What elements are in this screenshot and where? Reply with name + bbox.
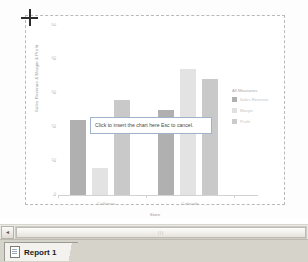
- legend-item-label: Margin: [240, 108, 253, 113]
- tab-label: Report 1: [24, 248, 56, 257]
- x-tick-label-colorado: Colorado: [160, 201, 220, 206]
- y-tick-mark: [53, 59, 56, 60]
- x-axis-tick: [146, 195, 147, 198]
- scrollbar-grip-icon: |||: [158, 230, 164, 235]
- legend-item-sales-revenue[interactable]: Sales Revenue: [232, 97, 284, 102]
- crosshair-vertical-bar: [29, 9, 31, 26]
- legend-swatch-icon: [232, 108, 237, 113]
- scrollbar-thumb[interactable]: |||: [16, 227, 306, 238]
- insert-chart-tooltip: Click to insert the chart here Esc to ca…: [90, 117, 212, 134]
- legend-item-label: Profit: [240, 119, 250, 124]
- bar-california-sales-revenue[interactable]: [70, 120, 86, 195]
- x-axis-title: Store: [26, 212, 284, 217]
- y-tick-mark: [53, 127, 56, 128]
- report-document-icon: [10, 246, 20, 258]
- x-axis-tick: [234, 195, 235, 198]
- crosshair-icon: [21, 9, 38, 26]
- tab-report-1[interactable]: Report 1: [4, 242, 69, 261]
- bar-colorado-profit[interactable]: [202, 79, 218, 195]
- x-tick-label-california: California: [76, 201, 136, 206]
- y-tick-mark: [53, 161, 56, 162]
- legend-item-margin[interactable]: Margin: [232, 108, 284, 113]
- bar-series-group: [58, 25, 258, 195]
- bar-california-profit[interactable]: [114, 100, 130, 195]
- x-axis-line: [58, 195, 258, 196]
- legend-title: All Measures: [232, 88, 284, 93]
- report-canvas[interactable]: Sales Revenue & Margin & Profit 50 40 30…: [0, 0, 308, 218]
- horizontal-scrollbar[interactable]: ◄ |||: [0, 224, 308, 239]
- legend-item-profit[interactable]: Profit: [232, 119, 284, 124]
- bar-california-margin[interactable]: [92, 168, 108, 195]
- legend-item-label: Sales Revenue: [240, 97, 268, 102]
- legend-swatch-icon: [232, 119, 237, 124]
- report-tab-bar[interactable]: Report 1: [0, 239, 308, 262]
- report-designer-window: Sales Revenue & Margin & Profit 50 40 30…: [0, 0, 308, 262]
- chart-placeholder-region[interactable]: Sales Revenue & Margin & Profit 50 40 30…: [25, 15, 285, 205]
- x-axis-tick: [58, 195, 59, 198]
- y-tick-mark: [53, 195, 56, 196]
- scroll-left-arrow-icon[interactable]: ◄: [1, 226, 14, 239]
- scrollbar-track[interactable]: |||: [15, 226, 307, 239]
- y-tick-mark: [53, 93, 56, 94]
- chart-legend[interactable]: All Measures Sales Revenue Margin Profit: [232, 88, 284, 130]
- bar-chart[interactable]: Sales Revenue & Margin & Profit 50 40 30…: [26, 16, 284, 204]
- legend-swatch-icon: [232, 97, 237, 102]
- tab-slant-edge: [64, 242, 78, 261]
- y-tick-mark: [53, 25, 56, 26]
